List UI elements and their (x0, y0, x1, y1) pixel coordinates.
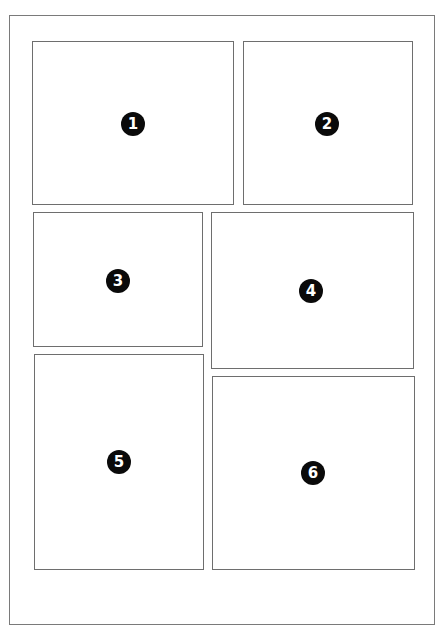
panel-number-badge-2: 2 (315, 112, 339, 136)
panel-number-badge-1: 1 (121, 112, 145, 136)
panel-number-badge-5: 5 (107, 450, 131, 474)
panel-number-badge-3: 3 (106, 269, 130, 293)
panel-number-badge-4: 4 (299, 279, 323, 303)
panel-number-badge-6: 6 (301, 461, 325, 485)
